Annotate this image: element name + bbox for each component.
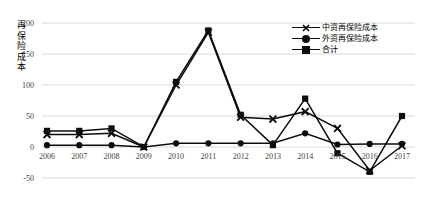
x-axis-tick: 2006 [30, 152, 64, 161]
data-point [399, 141, 405, 147]
legend-marker-circle-icon [292, 33, 320, 44]
data-point [173, 79, 179, 85]
data-point [302, 130, 308, 136]
x-axis-tick: 2010 [159, 152, 193, 161]
data-point [173, 140, 179, 146]
data-point [334, 125, 341, 132]
data-point [238, 112, 244, 118]
legend-label-waizi: 外资再保险成本 [322, 33, 378, 44]
x-axis-tick: 2009 [127, 152, 161, 161]
data-point [76, 128, 82, 134]
y-axis-tick: 100 [8, 81, 34, 90]
reinsurance-cost-line-chart: 再保险成本 200150100500-50 200620072008200920… [0, 0, 422, 214]
y-axis-tick: 200 [8, 19, 34, 28]
data-point [238, 140, 244, 146]
data-point [108, 142, 114, 148]
x-axis-tick: 2014 [288, 152, 322, 161]
data-point [44, 128, 50, 134]
x-axis-tick: 2012 [224, 152, 258, 161]
legend-label-heji: 合计 [322, 44, 338, 55]
x-axis-tick: 2007 [62, 152, 96, 161]
chart-legend: 中资再保险成本 外资再保险成本 合计 [292, 22, 378, 55]
y-axis-tick: 150 [8, 50, 34, 59]
data-point [334, 141, 340, 147]
x-axis-tick: 2013 [256, 152, 290, 161]
legend-entry-waizi: 外资再保险成本 [292, 33, 378, 44]
legend-entry-heji: 合计 [292, 44, 378, 55]
series-line-1 [47, 133, 402, 147]
x-axis-tick: 2016 [353, 152, 387, 161]
y-axis-tick: -50 [8, 174, 34, 183]
legend-label-zhongzi: 中资再保险成本 [322, 22, 378, 33]
data-point [367, 141, 373, 147]
x-axis-tick: 2015 [320, 152, 354, 161]
x-axis-tick: 2008 [95, 152, 129, 161]
data-point [205, 140, 211, 146]
legend-marker-cross-icon [292, 22, 320, 33]
x-axis-tick: 2011 [191, 152, 225, 161]
data-point [302, 96, 308, 102]
y-axis-tick: 50 [8, 112, 34, 121]
data-point [205, 27, 211, 33]
legend-marker-square-icon [292, 44, 320, 55]
data-point [108, 125, 114, 131]
legend-entry-zhongzi: 中资再保险成本 [292, 22, 378, 33]
data-point [367, 169, 373, 175]
data-point [399, 113, 405, 119]
y-axis-tick: 0 [8, 143, 34, 152]
data-point [76, 142, 82, 148]
x-axis-tick: 2017 [385, 152, 419, 161]
data-point [141, 144, 147, 150]
data-point [270, 142, 276, 148]
data-point [44, 142, 50, 148]
